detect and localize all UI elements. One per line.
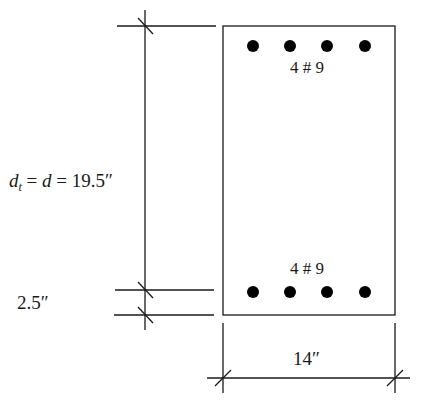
beam-drawing <box>0 0 421 412</box>
dt-variable: d <box>9 170 19 191</box>
top-bar-4 <box>359 40 371 52</box>
top-bar-1 <box>247 40 259 52</box>
top-bar-3 <box>321 40 333 52</box>
cover-dimension-label: 2.5″ <box>17 292 49 314</box>
d-variable: d <box>42 170 52 191</box>
top-bar-2 <box>284 40 296 52</box>
width-dimension-label: 14″ <box>293 348 320 370</box>
bottom-bar-4 <box>359 286 371 298</box>
top-reinforcement-label: 4 # 9 <box>290 58 324 78</box>
bottom-reinforcement-label: 4 # 9 <box>290 259 324 279</box>
beam-section-diagram: 4 # 9 4 # 9 dt = d = 19.5″ 2.5″ 14″ <box>0 0 421 412</box>
effective-depth-label: dt = d = 19.5″ <box>9 170 113 195</box>
bottom-bar-2 <box>284 286 296 298</box>
bottom-bar-3 <box>321 286 333 298</box>
equals-1: = <box>22 170 42 191</box>
bottom-bar-1 <box>247 286 259 298</box>
depth-value: = 19.5″ <box>52 170 113 191</box>
